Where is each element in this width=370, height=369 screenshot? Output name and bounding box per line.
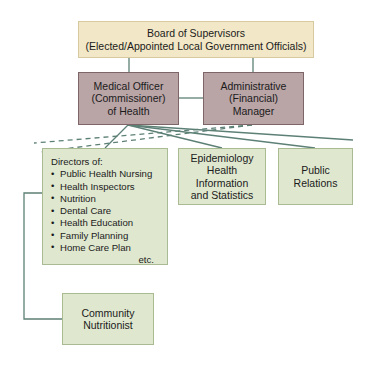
community-nutritionist-line-1: Community <box>81 307 134 319</box>
epidemiology-line-3: Information <box>196 177 249 189</box>
list-item: Family Planning <box>51 230 160 242</box>
node-medical-officer[interactable]: Medical Officer (Commissioner) of Health <box>78 72 179 125</box>
node-community-nutritionist[interactable]: Community Nutritionist <box>62 293 154 345</box>
admin-manager-line-3: Manager <box>233 105 274 117</box>
list-item: Health Inspectors <box>51 181 160 193</box>
list-item: Dental Care <box>51 205 160 217</box>
board-title: Board of Supervisors <box>147 27 245 39</box>
node-public-relations[interactable]: Public Relations <box>278 148 353 205</box>
node-directors[interactable]: Directors of: Public Health Nursing Heal… <box>42 148 168 265</box>
node-board-of-supervisors[interactable]: Board of Supervisors (Elected/Appointed … <box>78 21 314 58</box>
org-chart: Board of Supervisors (Elected/Appointed … <box>0 0 370 369</box>
node-administrative-manager[interactable]: Administrative (Financial) Manager <box>203 72 304 125</box>
medical-officer-line-2: (Commissioner) <box>91 92 165 104</box>
public-relations-line-2: Relations <box>294 177 338 189</box>
node-epidemiology[interactable]: Epidemiology Health Information and Stat… <box>178 148 266 205</box>
medical-officer-line-3: of Health <box>107 105 149 117</box>
board-subtitle: (Elected/Appointed Local Government Offi… <box>85 40 306 52</box>
community-nutritionist-line-2: Nutritionist <box>83 319 133 331</box>
directors-etc: etc. <box>139 254 160 265</box>
list-item: Home Care Plan <box>51 242 160 254</box>
medical-officer-line-1: Medical Officer <box>94 80 164 92</box>
epidemiology-line-2: Health <box>207 164 237 176</box>
epidemiology-line-4: and Statistics <box>191 189 253 201</box>
list-item: Public Health Nursing <box>51 168 160 180</box>
admin-manager-line-2: (Financial) <box>229 92 278 104</box>
list-item: Nutrition <box>51 193 160 205</box>
list-item: Health Education <box>51 217 160 229</box>
directors-list: Public Health Nursing Health Inspectors … <box>51 168 160 254</box>
admin-manager-line-1: Administrative <box>221 80 287 92</box>
public-relations-line-1: Public <box>301 164 330 176</box>
connector-admin-manager-to-directors <box>34 125 252 143</box>
directors-heading: Directors of: <box>51 156 160 167</box>
epidemiology-line-1: Epidemiology <box>190 152 253 164</box>
